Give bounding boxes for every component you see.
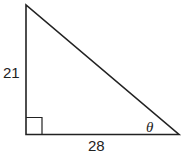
horizontal-leg-label: 28 [88,137,105,154]
right-triangle-diagram: 21 28 θ [0,0,182,154]
triangle [26,5,179,135]
vertical-leg-label: 21 [3,64,20,81]
angle-theta-label: θ [146,119,154,135]
right-angle-marker [26,118,42,135]
